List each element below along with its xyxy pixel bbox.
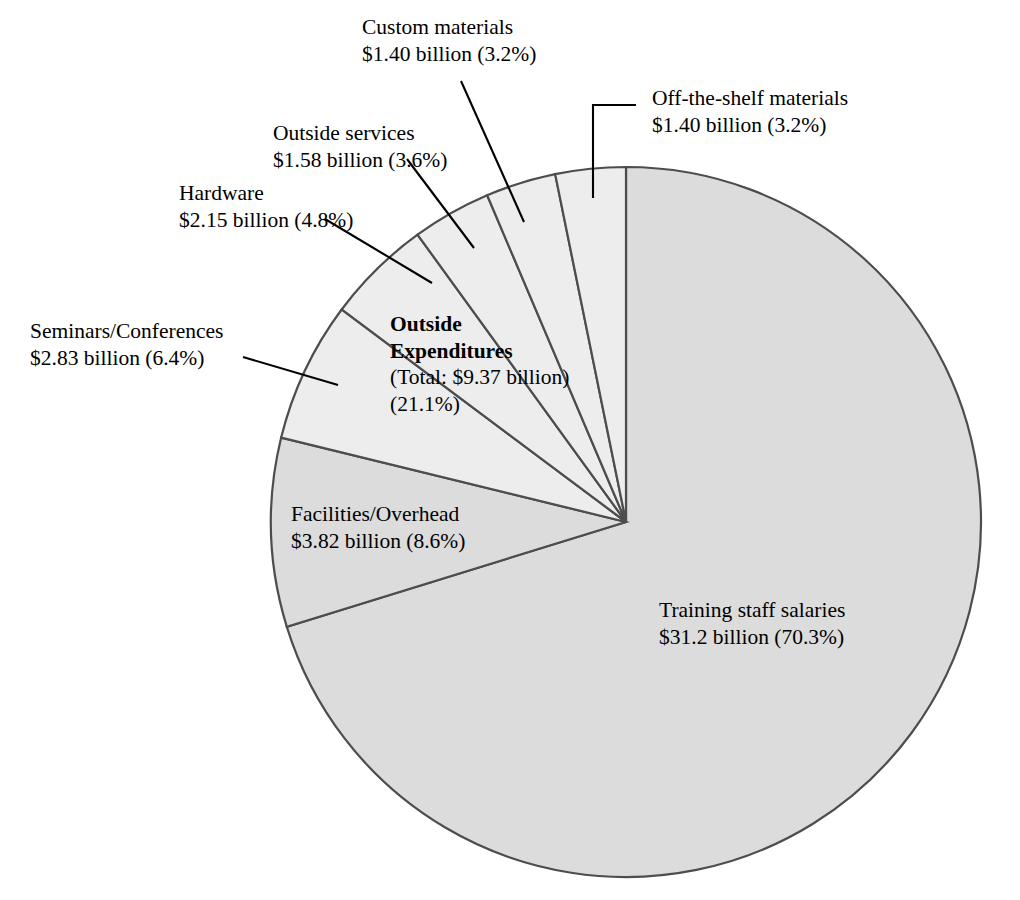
- label-outside-services-line2: $1.58 billion (3.6%): [273, 147, 447, 174]
- label-custom-materials-line1: Custom materials: [362, 15, 513, 39]
- label-seminars-conferences-line1: Seminars/Conferences: [30, 319, 223, 343]
- label-outside-expenditures-line1: Outside: [390, 311, 569, 338]
- label-facilities-overhead: Facilities/Overhead $3.82 billion (8.6%): [291, 501, 465, 554]
- label-outside-services: Outside services $1.58 billion (3.6%): [273, 120, 447, 173]
- label-custom-materials-line2: $1.40 billion (3.2%): [362, 41, 536, 68]
- label-seminars-conferences-line2: $2.83 billion (6.4%): [30, 345, 223, 372]
- pie-chart-figure: Custom materials $1.40 billion (3.2%) Of…: [0, 0, 1020, 900]
- label-hardware-line1: Hardware: [179, 181, 264, 205]
- label-outside-services-line1: Outside services: [273, 121, 415, 145]
- label-outside-expenditures-line3: (Total: $9.37 billion): [390, 364, 569, 391]
- label-training-staff-salaries-line1: Training staff salaries: [659, 598, 845, 622]
- label-off-the-shelf-materials-line2: $1.40 billion (3.2%): [652, 112, 848, 139]
- label-seminars-conferences: Seminars/Conferences $2.83 billion (6.4%…: [30, 318, 223, 371]
- label-off-the-shelf-materials-line1: Off-the-shelf materials: [652, 86, 848, 110]
- label-facilities-overhead-line2: $3.82 billion (8.6%): [291, 528, 465, 555]
- label-training-staff-salaries-line2: $31.2 billion (70.3%): [659, 624, 845, 651]
- pie-chart-graphic: [0, 0, 1020, 900]
- label-off-the-shelf-materials: Off-the-shelf materials $1.40 billion (3…: [652, 85, 848, 138]
- label-hardware-line2: $2.15 billion (4.8%): [179, 207, 353, 234]
- label-training-staff-salaries: Training staff salaries $31.2 billion (7…: [659, 597, 845, 650]
- label-outside-expenditures: Outside Expenditures (Total: $9.37 billi…: [390, 311, 569, 418]
- label-custom-materials: Custom materials $1.40 billion (3.2%): [362, 14, 536, 67]
- label-facilities-overhead-line1: Facilities/Overhead: [291, 502, 459, 526]
- label-hardware: Hardware $2.15 billion (4.8%): [179, 180, 353, 233]
- label-outside-expenditures-line2: Expenditures: [390, 338, 569, 365]
- label-outside-expenditures-line4: (21.1%): [390, 391, 569, 418]
